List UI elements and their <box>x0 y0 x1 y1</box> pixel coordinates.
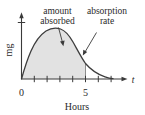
annotation-rate-line1: absorption <box>87 6 127 16</box>
x-axis-arrowhead <box>122 77 128 82</box>
x-tick-label-5: 5 <box>83 87 88 98</box>
x-axis-variable-label: t <box>132 75 135 85</box>
annotation-rate-line2: rate <box>100 16 114 26</box>
y-axis-label: mg <box>3 44 14 57</box>
shaded-area-amount-absorbed <box>22 28 86 79</box>
absorption-rate-arrowhead <box>83 50 87 56</box>
annotation-amount-line2: absorbed <box>40 16 75 26</box>
y-axis-arrowhead <box>19 12 23 18</box>
absorption-rate-leader-line <box>85 33 97 53</box>
absorption-rate-figure: amount absorbed absorption rate mg t 0 5… <box>0 0 145 115</box>
annotation-amount-line1: amount <box>43 6 72 16</box>
chart-canvas: amount absorbed absorption rate mg t 0 5… <box>0 0 145 115</box>
x-tick-label-0: 0 <box>19 87 24 98</box>
x-axis-label: Hours <box>65 101 90 112</box>
